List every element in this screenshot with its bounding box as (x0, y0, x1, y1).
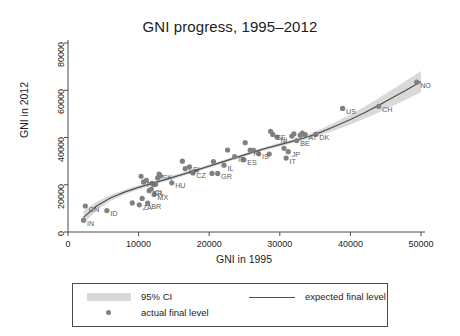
x-tick-label: 30000 (267, 239, 292, 249)
confidence-band (84, 71, 421, 224)
x-tick-label: 10000 (126, 239, 151, 249)
legend-ci-label: 95% CI (141, 291, 172, 302)
axes (64, 40, 425, 236)
chart-figure: GNI progress, 1995–2012 GNI in 2012 GNI … (0, 0, 460, 336)
y-tick-label: 60000 (56, 89, 66, 114)
legend: 95% CI expected final level actual final… (72, 283, 388, 327)
y-tick-label: 40000 (56, 137, 66, 162)
y-tick-label: 80000 (56, 42, 66, 67)
x-tick-label: 50000 (408, 239, 433, 249)
legend-expected-label: expected final level (305, 291, 386, 302)
legend-expected-line (249, 297, 295, 298)
x-tick-label: 40000 (338, 239, 363, 249)
y-tick-label: 20000 (56, 184, 66, 209)
x-tick-label: 20000 (197, 239, 222, 249)
legend-actual-marker (106, 310, 111, 315)
x-tick-label: 0 (65, 239, 70, 249)
data-points (81, 80, 419, 223)
legend-ci-swatch (87, 293, 131, 301)
y-tick-label: 0 (56, 231, 66, 236)
legend-actual-label: actual final level (141, 307, 209, 318)
